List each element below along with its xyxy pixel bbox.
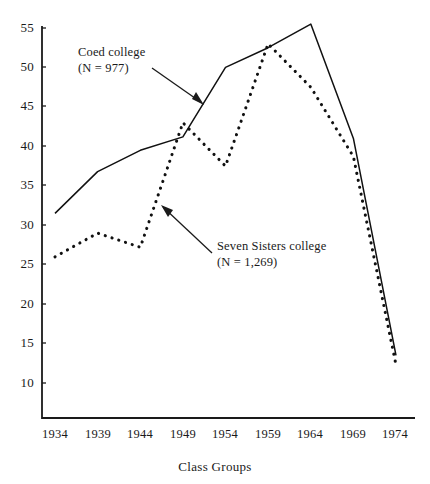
seven-sisters-annotation-line1: Seven Sisters college	[217, 239, 326, 255]
x-tick-label: 1959	[245, 428, 291, 441]
x-tick-label: 1974	[372, 428, 418, 441]
seven-sisters-annotation-arrow	[161, 205, 212, 253]
x-tick-label: 1954	[202, 428, 248, 441]
y-tick-label: 35	[8, 178, 34, 191]
x-axis-title: Class Groups	[0, 459, 430, 475]
seven-sisters-annotation-line2: (N = 1,269)	[217, 255, 326, 271]
x-tick-label: 1934	[32, 428, 78, 441]
y-tick-label: 50	[8, 60, 34, 73]
y-tick-label: 25	[8, 257, 34, 270]
x-tick-label: 1949	[160, 428, 206, 441]
chart-figure: 55 50 45 40 35 30 25 20 15 10 1934 1939 …	[0, 0, 430, 484]
axis-lines	[42, 26, 415, 418]
y-tick-label: 45	[8, 99, 34, 112]
coed-annotation-label: Coed college (N = 977)	[78, 45, 145, 76]
x-tick-label: 1969	[330, 428, 376, 441]
y-tick-label: 40	[8, 139, 34, 152]
x-tick-label: 1944	[117, 428, 163, 441]
chart-plot-area	[0, 0, 430, 484]
seven-sisters-annotation-label: Seven Sisters college (N = 1,269)	[217, 239, 326, 270]
series-line-seven-sisters-college	[55, 44, 396, 365]
coed-annotation-line2: (N = 977)	[78, 61, 145, 77]
coed-annotation-line1: Coed college	[78, 45, 145, 61]
y-tick-label: 20	[8, 297, 34, 310]
coed-annotation-arrow	[152, 68, 204, 105]
y-tick-label: 55	[8, 21, 34, 34]
x-tick-label: 1964	[287, 428, 333, 441]
y-tick-label: 30	[8, 218, 34, 231]
y-tick-label: 10	[8, 376, 34, 389]
x-tick-label: 1939	[75, 428, 121, 441]
y-tick-label: 15	[8, 336, 34, 349]
